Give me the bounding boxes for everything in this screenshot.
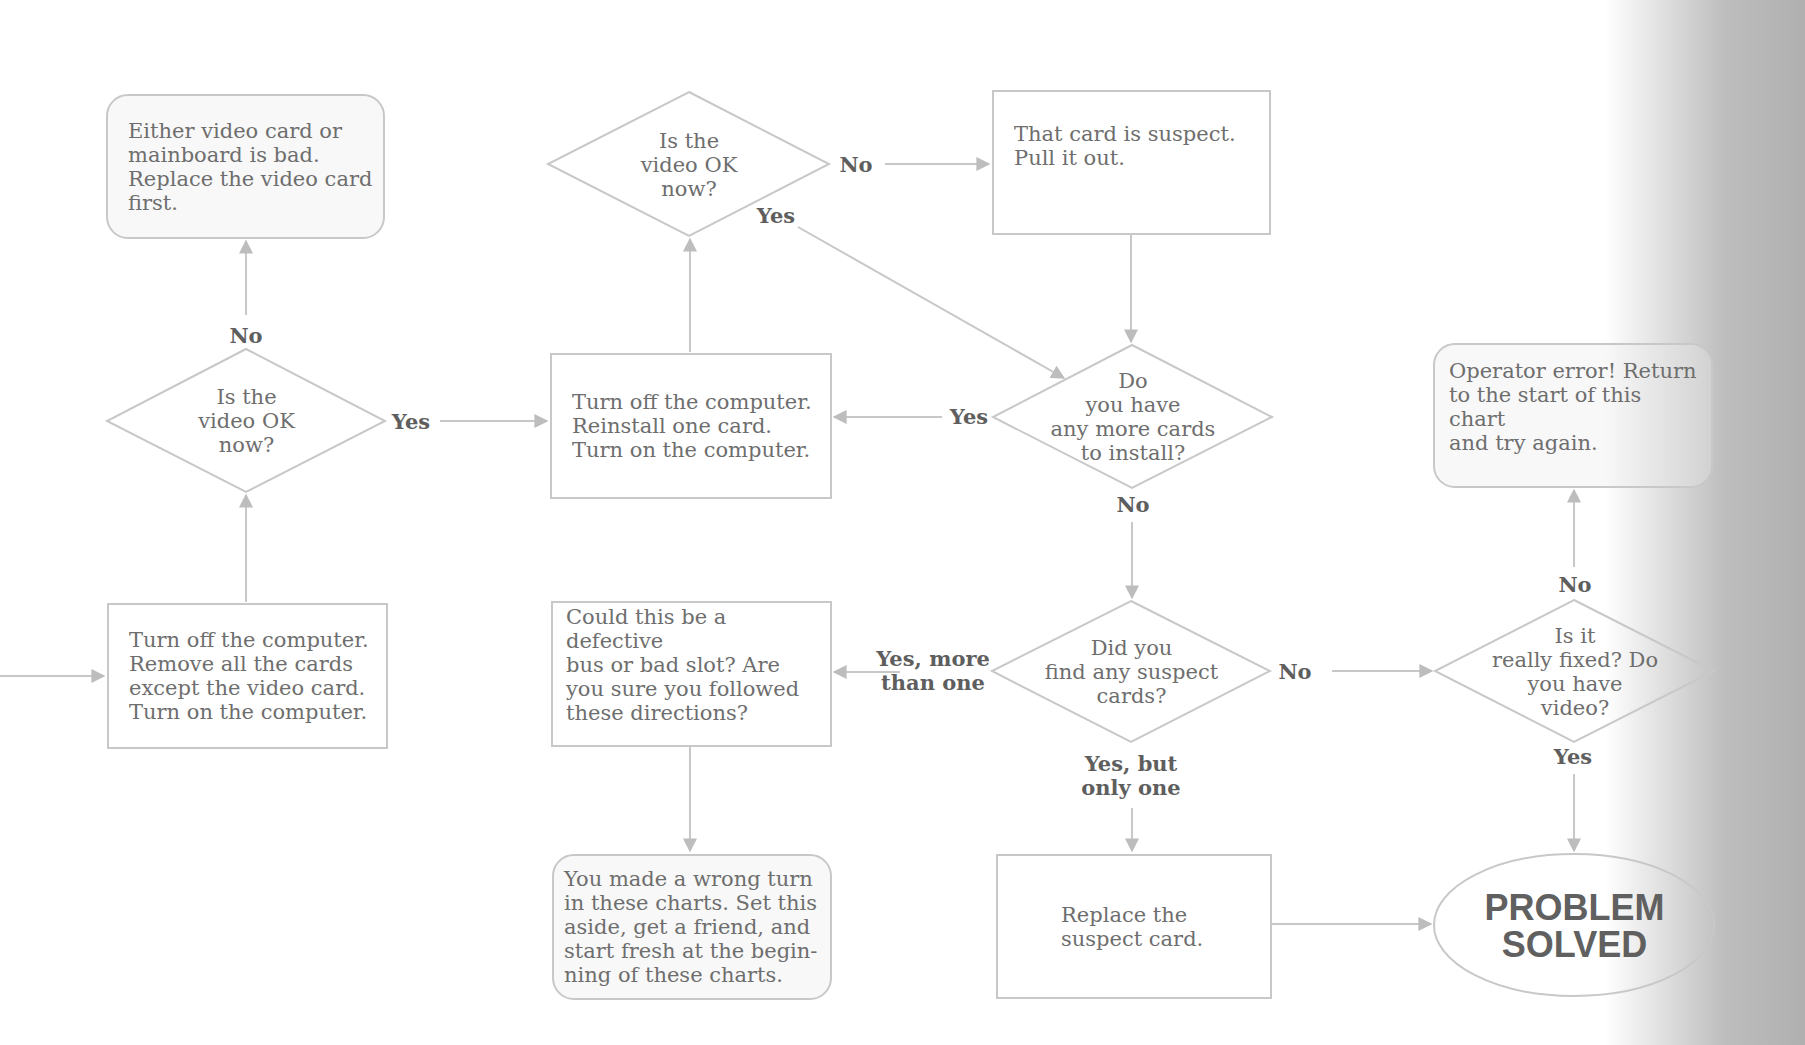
terminal-problem-solved-text: PROBLEM SOLVED: [1434, 889, 1715, 963]
box-card-suspect-text: That card is suspect. Pull it out.: [1014, 122, 1261, 170]
label-top-no: No: [839, 153, 872, 177]
decision-found-suspect-text: Did you find any suspect cards?: [992, 636, 1271, 708]
label-top-yes: Yes: [757, 204, 795, 228]
decision-more-cards: Do you have any more cards to install?: [993, 345, 1273, 489]
label-more-cards-yes: Yes: [950, 405, 988, 429]
decision-more-cards-text: Do you have any more cards to install?: [993, 369, 1273, 465]
box-operator-error: Operator error! Return to the start of t…: [1433, 343, 1713, 488]
label-found-more-than-one: Yes, more than one: [876, 647, 990, 695]
label-fixed-no: No: [1558, 573, 1591, 597]
decision-video-ok-left: Is the video OK now?: [107, 349, 386, 493]
box-operator-error-text: Operator error! Return to the start of t…: [1449, 359, 1703, 455]
decision-video-ok-top-text: Is the video OK now?: [548, 129, 830, 201]
box-replace-suspect-text: Replace the suspect card.: [1061, 903, 1262, 951]
decision-found-suspect: Did you find any suspect cards?: [992, 601, 1271, 743]
box-replace-suspect: Replace the suspect card.: [996, 854, 1272, 999]
box-defective-bus-text: Could this be a defective bus or bad slo…: [566, 605, 822, 725]
box-remove-cards: Turn off the computer. Remove all the ca…: [107, 603, 388, 749]
box-remove-cards-text: Turn off the computer. Remove all the ca…: [129, 628, 378, 724]
label-found-only-one: Yes, but only one: [1081, 752, 1180, 800]
label-more-cards-no: No: [1116, 493, 1149, 517]
box-replace-video-card: Either video card or mainboard is bad. R…: [106, 94, 385, 239]
label-found-no: No: [1278, 660, 1311, 684]
box-replace-video-card-text: Either video card or mainboard is bad. R…: [128, 119, 375, 215]
decision-video-ok-left-text: Is the video OK now?: [107, 385, 386, 457]
box-reinstall-card: Turn off the computer. Reinstall one car…: [550, 353, 832, 499]
box-defective-bus: Could this be a defective bus or bad slo…: [551, 601, 832, 747]
label-left-yes: Yes: [392, 410, 430, 434]
box-reinstall-card-text: Turn off the computer. Reinstall one car…: [572, 390, 822, 462]
terminal-problem-solved: PROBLEM SOLVED: [1434, 854, 1715, 997]
decision-really-fixed-text: Is it really fixed? Do you have video?: [1435, 624, 1715, 720]
box-wrong-turn: You made a wrong turn in these charts. S…: [552, 854, 832, 1000]
box-card-suspect: That card is suspect. Pull it out.: [992, 90, 1271, 235]
label-fixed-yes: Yes: [1554, 745, 1592, 769]
decision-really-fixed: Is it really fixed? Do you have video?: [1435, 600, 1715, 743]
label-left-no: No: [229, 324, 262, 348]
box-wrong-turn-text: You made a wrong turn in these charts. S…: [564, 867, 822, 987]
